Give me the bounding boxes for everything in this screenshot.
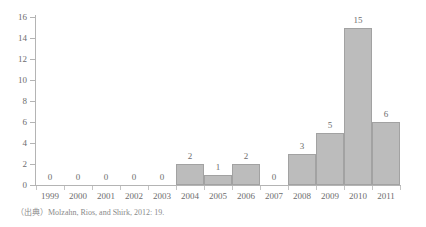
bar-value-label: 0 — [132, 173, 137, 182]
bar-value-label: 0 — [76, 173, 81, 182]
bar-group: 0 — [260, 17, 288, 185]
x-axis-category-label: 2011 — [372, 191, 400, 202]
x-axis-category-label: 2003 — [148, 191, 176, 202]
x-axis-tick — [232, 186, 233, 190]
bar[interactable] — [344, 28, 372, 186]
bar-value-label: 3 — [300, 142, 305, 151]
y-axis-tick-label: 10 — [0, 76, 27, 85]
x-axis-tick — [36, 186, 37, 190]
bar-group: 6 — [372, 17, 400, 185]
bar-group: 1 — [204, 17, 232, 185]
x-axis-tick — [372, 186, 373, 190]
x-axis-category-label: 2004 — [176, 191, 204, 202]
bar[interactable] — [288, 154, 316, 186]
bar-value-label: 2 — [188, 152, 193, 161]
x-axis-tick — [176, 186, 177, 190]
bar-group: 2 — [232, 17, 260, 185]
y-axis-tick — [30, 101, 35, 102]
y-axis-tick — [30, 59, 35, 60]
bar-group: 0 — [120, 17, 148, 185]
bar-value-label: 6 — [384, 110, 389, 119]
bar-value-label: 0 — [272, 173, 277, 182]
y-axis-tick-label: 14 — [0, 34, 27, 43]
bar-value-label: 2 — [244, 152, 249, 161]
y-axis-tick — [30, 164, 35, 165]
bar[interactable] — [176, 164, 204, 185]
x-axis-category-label: 2001 — [92, 191, 120, 202]
y-axis-tick — [30, 38, 35, 39]
bar-group: 15 — [344, 17, 372, 185]
x-axis-tick — [204, 186, 205, 190]
bar[interactable] — [232, 164, 260, 185]
x-axis-tick — [120, 186, 121, 190]
bar-value-label: 5 — [328, 121, 333, 130]
x-axis-tick — [64, 186, 65, 190]
bar[interactable] — [372, 122, 400, 185]
bar-value-label: 15 — [354, 16, 363, 25]
bar-group: 5 — [316, 17, 344, 185]
x-axis-category-label: 2008 — [288, 191, 316, 202]
x-axis-category-label: 2005 — [204, 191, 232, 202]
bar-value-label: 0 — [160, 173, 165, 182]
bar-group: 3 — [288, 17, 316, 185]
y-axis-tick-label: 2 — [0, 160, 27, 169]
bar-value-label: 0 — [48, 173, 53, 182]
x-axis-tick — [92, 186, 93, 190]
y-axis-tick-label: 0 — [0, 181, 27, 190]
y-axis-tick-label: 8 — [0, 97, 27, 106]
bar[interactable] — [316, 133, 344, 186]
x-axis-tick — [148, 186, 149, 190]
x-axis-labels: 1999200020012002200320042005200620072008… — [36, 191, 400, 205]
bars-layer: 00000212035156 — [36, 17, 400, 185]
y-axis-tick — [30, 122, 35, 123]
y-axis-tick-label: 16 — [0, 13, 27, 22]
page-title — [0, 0, 426, 2]
bar-value-label: 1 — [216, 163, 221, 172]
x-axis-category-label: 2000 — [64, 191, 92, 202]
x-axis-line — [35, 185, 401, 186]
y-axis-tick — [30, 143, 35, 144]
x-axis-category-label: 2002 — [120, 191, 148, 202]
bar-group: 2 — [176, 17, 204, 185]
bar-chart-figure: 00000212035156 1999200020012002200320042… — [0, 0, 426, 227]
y-axis-tick-label: 4 — [0, 139, 27, 148]
x-axis-category-label: 2007 — [260, 191, 288, 202]
source-note: （出典）Molzahn, Rios, and Shirk, 2012: 19. — [16, 208, 164, 218]
bar-group: 0 — [148, 17, 176, 185]
y-axis-tick-label: 6 — [0, 118, 27, 127]
x-axis-tick — [288, 186, 289, 190]
x-axis-category-label: 1999 — [36, 191, 64, 202]
bar-group: 0 — [92, 17, 120, 185]
x-axis-tick — [260, 186, 261, 190]
x-axis-tick — [316, 186, 317, 190]
bar-group: 0 — [36, 17, 64, 185]
y-axis-tick — [30, 17, 35, 18]
x-axis-category-label: 2010 — [344, 191, 372, 202]
bar-group: 0 — [64, 17, 92, 185]
x-axis-tick — [344, 186, 345, 190]
y-axis-tick — [30, 80, 35, 81]
bar-value-label: 0 — [104, 173, 109, 182]
x-axis-tick — [400, 186, 401, 190]
x-axis-category-label: 2006 — [232, 191, 260, 202]
y-axis-tick-label: 12 — [0, 55, 27, 64]
y-axis-tick — [30, 185, 35, 186]
x-axis-category-label: 2009 — [316, 191, 344, 202]
bar[interactable] — [204, 175, 232, 186]
